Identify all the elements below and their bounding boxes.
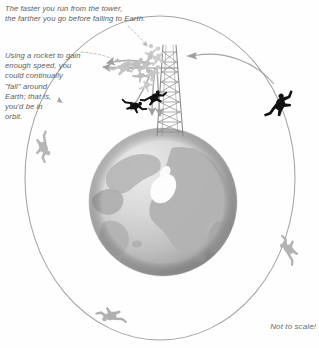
- leader-left-caption: [81, 52, 120, 62]
- earth-globe: [89, 128, 237, 276]
- orbit-figure-right-top: [260, 87, 300, 124]
- figure-faller-dark-1: [119, 94, 149, 117]
- orbit-figure-left: [34, 129, 53, 163]
- leader-top-caption: [128, 26, 147, 46]
- globe-landmasses: [89, 128, 237, 276]
- orbit-diagram-svg: [0, 0, 319, 348]
- orbit-figure-bottom: [94, 303, 130, 329]
- orbit-tick-arrow-left: [57, 97, 63, 103]
- figure-canvas: The faster you run from the tower, the f…: [0, 0, 319, 348]
- leader-lines: [81, 26, 147, 62]
- island-b: [210, 263, 218, 269]
- orbit-arrow-tail: [195, 54, 274, 84]
